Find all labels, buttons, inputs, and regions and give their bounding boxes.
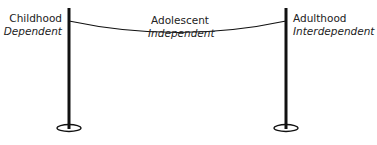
adulthood-title: Adulthood bbox=[293, 12, 374, 25]
adulthood-label: Adulthood Interdependent bbox=[293, 12, 374, 38]
childhood-title: Childhood bbox=[4, 12, 62, 25]
childhood-label: Childhood Dependent bbox=[4, 12, 62, 38]
adolescent-label: Adolescent Independent bbox=[148, 14, 212, 40]
clothesline-diagram: Childhood Dependent Adolescent Independe… bbox=[0, 0, 377, 145]
adolescent-subtitle: Independent bbox=[148, 27, 212, 40]
childhood-subtitle: Dependent bbox=[4, 25, 62, 38]
adolescent-title: Adolescent bbox=[148, 14, 212, 27]
adulthood-subtitle: Interdependent bbox=[293, 25, 374, 38]
